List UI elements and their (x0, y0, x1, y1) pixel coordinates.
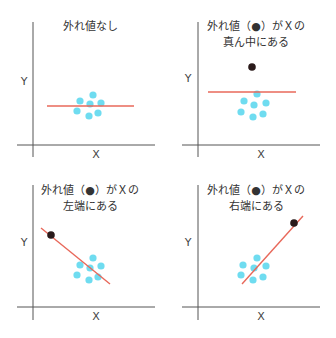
data-point (262, 262, 269, 269)
data-point (73, 271, 80, 278)
panel-title: 外れ値（●）がＸの (207, 183, 305, 197)
outlier-point (47, 231, 55, 239)
data-point (76, 97, 83, 104)
y-axis-label: Y (20, 75, 28, 88)
data-point (85, 112, 92, 119)
y-axis-label: Y (184, 72, 192, 85)
panel-outlier-left: 外れ値（●）がＸの左端にあるYX (17, 183, 155, 323)
x-axis-label: X (257, 148, 265, 161)
data-point (250, 101, 257, 108)
data-point (237, 271, 244, 278)
data-point (237, 108, 244, 115)
panel-no-outlier: 外れ値なしYX (17, 20, 155, 161)
data-point (97, 262, 104, 269)
data-point (85, 276, 92, 283)
data-point (262, 99, 269, 106)
y-axis-label: Y (20, 236, 28, 249)
outlier-point (248, 63, 256, 71)
x-axis-label: X (257, 310, 265, 323)
data-point (249, 276, 256, 283)
data-point (240, 97, 247, 104)
data-point (73, 107, 80, 114)
data-point (249, 113, 256, 120)
x-axis-label: X (92, 148, 100, 161)
data-point (259, 110, 266, 117)
panel-title: 外れ値（●）がＸの (207, 19, 305, 33)
panel-title: 外れ値なし (63, 20, 118, 33)
data-point (239, 261, 246, 268)
x-axis-label: X (92, 310, 100, 323)
panel-title: 真ん中にある (223, 35, 289, 49)
panel-outlier-right: 外れ値（●）がＸの右端にあるYX (182, 183, 320, 323)
panel-title: 外れ値（●）がＸの (41, 183, 139, 197)
data-point (89, 254, 96, 261)
data-point (259, 273, 266, 280)
data-point (89, 91, 96, 98)
data-point (94, 109, 101, 116)
data-point (253, 254, 260, 261)
y-axis-label: Y (184, 236, 192, 249)
panel-title: 右端にある (229, 199, 284, 213)
outlier-point (290, 219, 298, 227)
outlier-regression-diagram: 外れ値なしYX外れ値（●）がＸの真ん中にあるYX外れ値（●）がＸの左端にあるYX… (0, 0, 336, 338)
panel-title: 左端にある (63, 200, 118, 213)
panel-outlier-middle: 外れ値（●）がＸの真ん中にあるYX (182, 19, 320, 161)
